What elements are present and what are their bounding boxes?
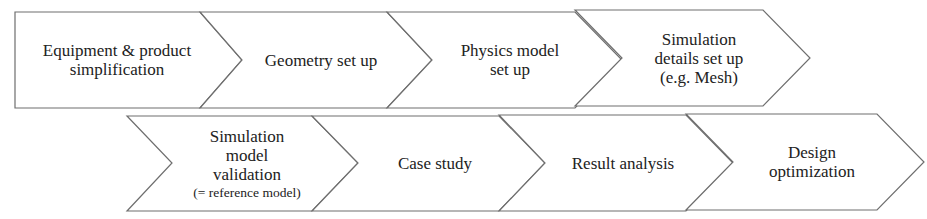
step-2-line-1: Geometry set up xyxy=(265,51,377,70)
step-3-line-2: set up xyxy=(490,60,530,79)
step-label-case-study: Case study xyxy=(350,116,520,211)
step-5-line-3: validation xyxy=(213,165,281,184)
step-8-line-2: optimization xyxy=(769,162,855,181)
step-label-simulation-details-setup: Simulation details set up (e.g. Mesh) xyxy=(614,10,784,106)
step-4-line-1: Simulation xyxy=(662,30,737,49)
step-5-line-4: (= reference model) xyxy=(193,184,300,201)
step-label-physics-model-setup: Physics model set up xyxy=(424,12,596,108)
step-5-line-2: model xyxy=(226,146,269,165)
step-1-line-2: simplification xyxy=(70,60,164,79)
step-3-line-1: Physics model xyxy=(461,41,560,60)
step-label-design-optimization: Design optimization xyxy=(726,114,898,210)
step-8-line-1: Design xyxy=(788,143,836,162)
step-label-simulation-model-validation: Simulation model validation (= reference… xyxy=(162,116,332,211)
step-6-line-1: Case study xyxy=(398,154,472,173)
step-4-line-3: (e.g. Mesh) xyxy=(660,68,738,87)
step-4-line-2: details set up xyxy=(655,49,744,68)
step-5-line-1: Simulation xyxy=(210,127,285,146)
step-label-result-analysis: Result analysis xyxy=(538,115,708,211)
step-7-line-1: Result analysis xyxy=(572,154,674,173)
step-1-line-1: Equipment & product xyxy=(43,41,191,60)
step-label-equipment-simplification: Equipment & product simplification xyxy=(22,12,212,108)
step-label-geometry-setup: Geometry set up xyxy=(236,12,406,108)
